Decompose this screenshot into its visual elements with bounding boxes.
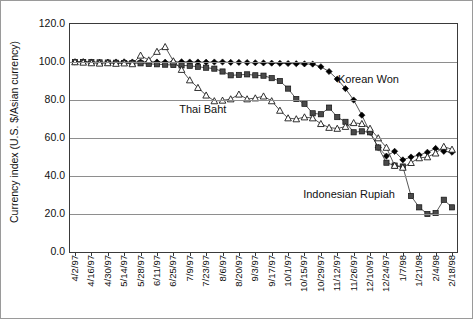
x-axis-tick-label: 12/10/97 [364, 255, 375, 292]
y-axis-tick-label: 80.0 [21, 93, 65, 105]
x-axis-tick-label: 11/12/97 [331, 255, 342, 291]
data-point-marker [351, 130, 356, 135]
x-axis-tick-label: 7/9/97 [183, 255, 194, 281]
data-point-marker [261, 73, 266, 78]
x-axis-tick-label: 10/15/97 [298, 255, 309, 292]
x-axis-tick-label: 1/21/98 [413, 255, 424, 287]
data-point-marker [154, 48, 161, 54]
data-point-marker [326, 105, 331, 110]
plot-area [69, 23, 458, 253]
data-point-marker [376, 145, 381, 150]
series-annotation-thai-baht: Thai Baht [179, 103, 226, 115]
x-axis-tick-label: 9/17/97 [265, 255, 276, 287]
x-axis-tick-label: 2/18/98 [446, 255, 457, 287]
data-point-marker [137, 52, 144, 58]
data-point-marker [350, 120, 357, 126]
data-point-marker [318, 64, 324, 70]
data-point-marker [424, 154, 431, 160]
y-axis-tick-label: 60.0 [21, 131, 65, 143]
data-point-marker [318, 120, 325, 126]
y-axis-tick-label: 0.0 [21, 245, 65, 257]
data-point-marker [359, 112, 365, 118]
data-point-marker [335, 115, 340, 120]
x-axis-tick-label: 12/24/97 [380, 255, 391, 292]
x-axis-tick-label: 9/3/97 [249, 255, 260, 281]
x-axis-tick-label: 6/25/97 [167, 255, 178, 287]
data-point-marker [277, 78, 282, 83]
x-axis-tick-label: 1/7/98 [396, 255, 407, 281]
x-axis-tick-label: 8/6/97 [216, 255, 227, 281]
series-annotation-indonesian-rupiah: Indonesian Rupiah [303, 188, 395, 200]
data-point-marker [408, 193, 413, 198]
data-point-marker [285, 86, 290, 91]
x-axis-tick-label: 7/23/97 [200, 255, 211, 287]
x-axis-tick-label: 5/28/97 [134, 255, 145, 287]
x-axis-tick-label: 4/2/97 [69, 255, 80, 281]
x-axis-tick-label: 5/14/97 [118, 255, 129, 287]
gridline [70, 100, 457, 101]
data-point-marker [302, 101, 307, 106]
data-point-marker [269, 60, 275, 66]
x-axis-tick-label: 4/30/97 [101, 255, 112, 287]
y-axis-tick-label: 120.0 [21, 17, 65, 29]
chart-figure: Currency index (U.S. $/Asian currency) 1… [0, 0, 473, 319]
gridline [70, 176, 457, 177]
data-point-marker [326, 124, 333, 130]
data-point-marker [253, 73, 258, 78]
data-point-marker [245, 72, 250, 77]
data-point-marker [260, 93, 267, 99]
data-point-marker [441, 143, 448, 149]
data-point-marker [162, 44, 169, 50]
x-axis-tick-label: 8/20/97 [232, 255, 243, 287]
data-point-marker [441, 197, 446, 202]
series-annotation-korean-won: Korean Won [338, 73, 399, 85]
data-point-marker [236, 72, 241, 77]
data-point-marker [204, 65, 209, 70]
data-point-marker [212, 66, 217, 71]
y-axis-tick-label: 100.0 [21, 55, 65, 67]
x-axis-tick-labels: 4/2/974/16/974/30/975/14/975/28/976/11/9… [69, 255, 456, 317]
data-point-marker [449, 205, 454, 210]
data-point-marker [449, 146, 456, 152]
data-point-marker [187, 63, 192, 68]
x-axis-tick-label: 10/1/97 [282, 255, 293, 287]
data-point-marker [359, 129, 364, 134]
data-point-marker [220, 69, 225, 74]
data-point-marker [408, 159, 415, 165]
data-point-marker [236, 91, 243, 97]
gridline [70, 62, 457, 63]
y-axis-tick-label: 20.0 [21, 207, 65, 219]
data-point-marker [417, 205, 422, 210]
gridline [70, 138, 457, 139]
x-axis-tick-label: 2/4/98 [429, 255, 440, 281]
x-axis-tick-label: 6/11/97 [150, 255, 161, 286]
data-point-marker [269, 76, 274, 81]
data-point-marker [301, 114, 308, 120]
x-axis-tick-label: 11/26/97 [347, 255, 358, 291]
gridline [70, 214, 457, 215]
x-axis-tick-label: 10/29/97 [314, 255, 325, 292]
x-axis-tick-label: 4/16/97 [85, 255, 96, 287]
y-axis-tick-labels: 120.0100.080.060.040.020.00.0 [17, 1, 65, 319]
data-point-marker [318, 112, 323, 117]
data-point-marker [228, 73, 233, 78]
y-axis-tick-label: 40.0 [21, 169, 65, 181]
data-point-marker [195, 64, 200, 69]
data-point-marker [384, 160, 389, 165]
